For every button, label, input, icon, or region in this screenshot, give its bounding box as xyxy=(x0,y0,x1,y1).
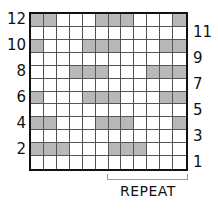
chart-cell-r12-c1 xyxy=(31,14,44,27)
chart-cell-r8-c9 xyxy=(134,66,147,79)
chart-cell-r2-c12 xyxy=(173,143,186,156)
chart-cell-r10-c12 xyxy=(173,40,186,53)
chart-cell-r5-c5 xyxy=(83,104,96,117)
chart-cell-r12-c10 xyxy=(147,14,160,27)
row-label-10: 10 xyxy=(7,38,26,53)
chart-cell-r8-c1 xyxy=(31,66,44,79)
chart-cell-r11-c8 xyxy=(121,27,134,40)
chart-cell-r4-c8 xyxy=(121,117,134,130)
chart-cell-r6-c11 xyxy=(160,92,173,105)
chart-cell-r1-c5 xyxy=(83,156,96,169)
chart-cell-r10-c2 xyxy=(44,40,57,53)
chart-cell-r8-c2 xyxy=(44,66,57,79)
chart-cell-r7-c2 xyxy=(44,79,57,92)
repeat-bracket xyxy=(107,174,188,180)
chart-cell-r4-c4 xyxy=(70,117,83,130)
chart-cell-r3-c5 xyxy=(83,130,96,143)
chart-cell-r7-c4 xyxy=(70,79,83,92)
chart-cell-r4-c7 xyxy=(109,117,122,130)
chart-cell-r4-c9 xyxy=(134,117,147,130)
chart-cell-r9-c12 xyxy=(173,53,186,66)
row-label-8: 8 xyxy=(16,64,26,79)
chart-cell-r11-c1 xyxy=(31,27,44,40)
chart-cell-r12-c3 xyxy=(57,14,70,27)
chart-cell-r5-c2 xyxy=(44,104,57,117)
chart-cell-r1-c11 xyxy=(160,156,173,169)
chart-cell-r12-c5 xyxy=(83,14,96,27)
chart-cell-r5-c3 xyxy=(57,104,70,117)
chart-cell-r7-c3 xyxy=(57,79,70,92)
stitch-chart-grid xyxy=(29,12,188,171)
chart-cell-r8-c6 xyxy=(96,66,109,79)
chart-cell-r10-c4 xyxy=(70,40,83,53)
chart-cell-r4-c10 xyxy=(147,117,160,130)
chart-cell-r11-c10 xyxy=(147,27,160,40)
chart-cell-r1-c8 xyxy=(121,156,134,169)
chart-cell-r5-c12 xyxy=(173,104,186,117)
chart-cell-r6-c4 xyxy=(70,92,83,105)
chart-cell-r12-c12 xyxy=(173,14,186,27)
chart-cell-r10-c3 xyxy=(57,40,70,53)
chart-cell-r10-c9 xyxy=(134,40,147,53)
chart-cell-r12-c9 xyxy=(134,14,147,27)
chart-cell-r10-c11 xyxy=(160,40,173,53)
chart-cell-r10-c5 xyxy=(83,40,96,53)
chart-cell-r12-c4 xyxy=(70,14,83,27)
chart-cell-r11-c2 xyxy=(44,27,57,40)
chart-cell-r10-c8 xyxy=(121,40,134,53)
chart-cell-r4-c6 xyxy=(96,117,109,130)
chart-cell-r8-c7 xyxy=(109,66,122,79)
chart-cell-r5-c1 xyxy=(31,104,44,117)
chart-cell-r1-c9 xyxy=(134,156,147,169)
chart-cell-r10-c1 xyxy=(31,40,44,53)
chart-cell-r9-c1 xyxy=(31,53,44,66)
chart-cell-r10-c6 xyxy=(96,40,109,53)
chart-cell-r3-c4 xyxy=(70,130,83,143)
chart-cell-r3-c1 xyxy=(31,130,44,143)
row-label-9: 9 xyxy=(193,51,203,66)
chart-cell-r4-c12 xyxy=(173,117,186,130)
chart-cell-r4-c2 xyxy=(44,117,57,130)
chart-cell-r8-c12 xyxy=(173,66,186,79)
chart-cell-r10-c7 xyxy=(109,40,122,53)
chart-cell-r11-c11 xyxy=(160,27,173,40)
chart-cell-r2-c1 xyxy=(31,143,44,156)
chart-cell-r2-c9 xyxy=(134,143,147,156)
chart-cell-r2-c11 xyxy=(160,143,173,156)
chart-cell-r2-c8 xyxy=(121,143,134,156)
chart-cell-r6-c3 xyxy=(57,92,70,105)
chart-cell-r7-c12 xyxy=(173,79,186,92)
chart-cell-r12-c11 xyxy=(160,14,173,27)
chart-cell-r11-c9 xyxy=(134,27,147,40)
chart-cell-r3-c10 xyxy=(147,130,160,143)
chart-cell-r5-c10 xyxy=(147,104,160,117)
chart-cell-r9-c3 xyxy=(57,53,70,66)
chart-cell-r3-c11 xyxy=(160,130,173,143)
chart-cell-r2-c6 xyxy=(96,143,109,156)
chart-cell-r2-c7 xyxy=(109,143,122,156)
chart-cell-r2-c2 xyxy=(44,143,57,156)
chart-cell-r11-c5 xyxy=(83,27,96,40)
repeat-label: REPEAT xyxy=(120,183,176,199)
chart-cell-r12-c8 xyxy=(121,14,134,27)
chart-cell-r6-c7 xyxy=(109,92,122,105)
chart-cell-r4-c1 xyxy=(31,117,44,130)
chart-cell-r9-c7 xyxy=(109,53,122,66)
chart-cell-r1-c4 xyxy=(70,156,83,169)
chart-cell-r1-c1 xyxy=(31,156,44,169)
chart-cell-r4-c11 xyxy=(160,117,173,130)
chart-cell-r11-c7 xyxy=(109,27,122,40)
chart-cell-r11-c12 xyxy=(173,27,186,40)
row-label-4: 4 xyxy=(16,116,26,131)
chart-cell-r8-c8 xyxy=(121,66,134,79)
chart-cell-r7-c1 xyxy=(31,79,44,92)
chart-cell-r9-c10 xyxy=(147,53,160,66)
row-label-1: 1 xyxy=(193,155,203,170)
chart-cell-r7-c10 xyxy=(147,79,160,92)
chart-cell-r6-c2 xyxy=(44,92,57,105)
chart-cell-r12-c2 xyxy=(44,14,57,27)
chart-cell-r6-c10 xyxy=(147,92,160,105)
chart-cell-r9-c9 xyxy=(134,53,147,66)
chart-cell-r3-c3 xyxy=(57,130,70,143)
row-label-7: 7 xyxy=(193,77,203,92)
